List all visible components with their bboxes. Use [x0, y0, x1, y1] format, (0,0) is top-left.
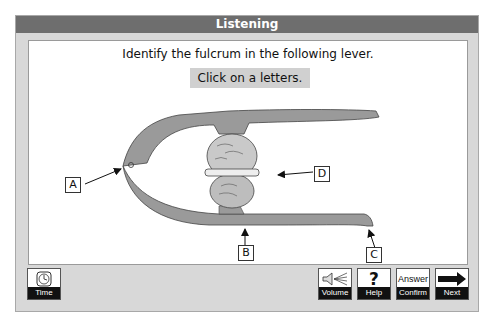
question-mark-icon: ? [358, 269, 390, 288]
time-label: Time [28, 287, 60, 299]
nutcracker-diagram [29, 41, 469, 266]
volume-label: Volume [319, 287, 351, 299]
test-window: Listening Identify the fulcrum in the fo… [15, 15, 479, 312]
help-button[interactable]: ? Help [357, 268, 391, 300]
time-button[interactable]: Time [27, 268, 61, 300]
arrow-right-icon [436, 269, 468, 288]
confirm-label: Confirm [397, 287, 429, 299]
clock-icon [28, 269, 60, 288]
option-letter-d[interactable]: D [314, 166, 330, 182]
volume-button[interactable]: Volume [318, 268, 352, 300]
answer-text-icon: Answer [397, 269, 429, 288]
confirm-button[interactable]: Answer Confirm [396, 268, 430, 300]
option-letter-b[interactable]: B [238, 245, 254, 261]
walnut-icon [205, 134, 259, 208]
option-letter-a[interactable]: A [65, 177, 81, 193]
option-letter-c[interactable]: C [366, 247, 382, 263]
next-button[interactable]: Next [435, 268, 469, 300]
window-title: Listening [16, 16, 478, 33]
next-label: Next [436, 287, 468, 299]
question-panel: Identify the fulcrum in the following le… [28, 40, 468, 265]
speaker-icon [319, 269, 351, 288]
help-label: Help [358, 287, 390, 299]
